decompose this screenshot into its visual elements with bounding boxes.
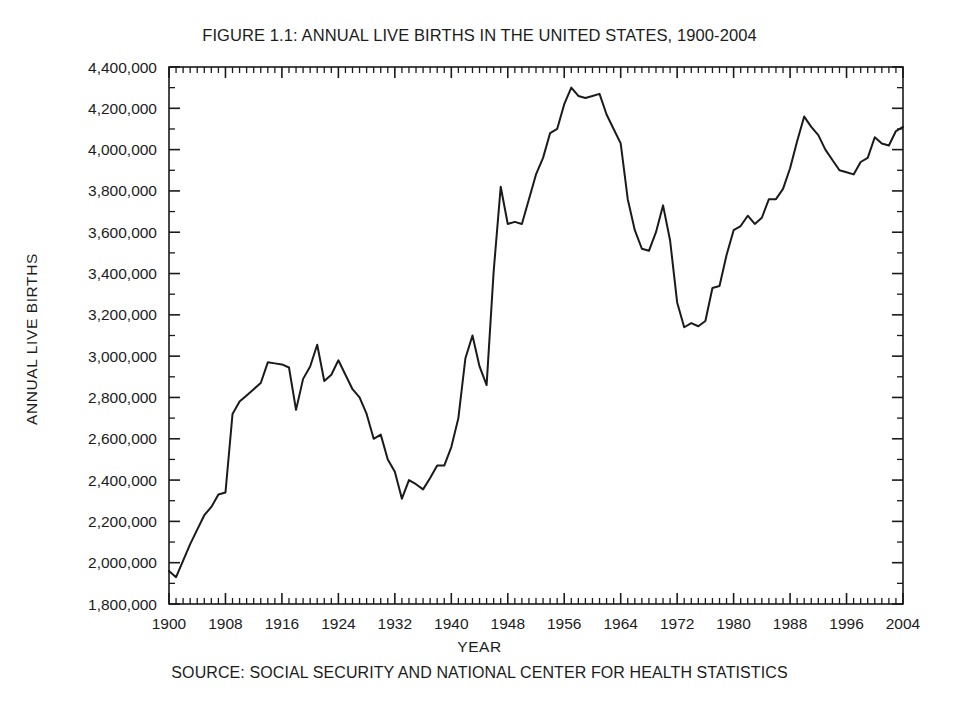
svg-text:3,200,000: 3,200,000 (88, 306, 157, 323)
svg-text:4,200,000: 4,200,000 (88, 100, 157, 117)
svg-text:2,400,000: 2,400,000 (88, 472, 157, 489)
svg-text:1900: 1900 (152, 615, 187, 632)
axes-frame (169, 67, 903, 604)
source-note: SOURCE: SOCIAL SECURITY AND NATIONAL CEN… (0, 664, 959, 682)
svg-text:2004: 2004 (886, 615, 921, 632)
svg-text:1964: 1964 (603, 615, 638, 632)
births-line-series (169, 88, 903, 578)
svg-text:1908: 1908 (208, 615, 242, 632)
svg-text:4,400,000: 4,400,000 (88, 59, 157, 76)
svg-text:1932: 1932 (378, 615, 412, 632)
figure-container: FIGURE 1.1: ANNUAL LIVE BIRTHS IN THE UN… (0, 0, 959, 705)
svg-text:1940: 1940 (434, 615, 469, 632)
line-chart-plot: 4,400,0004,200,0004,000,0003,800,0003,60… (0, 0, 959, 705)
svg-text:1924: 1924 (321, 615, 356, 632)
svg-text:1,800,000: 1,800,000 (88, 596, 157, 613)
x-axis-title: YEAR (0, 638, 959, 656)
svg-text:1996: 1996 (829, 615, 863, 632)
svg-text:1948: 1948 (491, 615, 525, 632)
x-axis-tick-labels: 1900190819161924193219401948195619641972… (152, 615, 921, 632)
svg-text:1988: 1988 (773, 615, 807, 632)
svg-text:1972: 1972 (660, 615, 694, 632)
svg-text:2,200,000: 2,200,000 (88, 513, 157, 530)
svg-text:2,000,000: 2,000,000 (88, 554, 157, 571)
svg-text:2,600,000: 2,600,000 (88, 430, 157, 447)
svg-text:1916: 1916 (265, 615, 299, 632)
svg-text:3,400,000: 3,400,000 (88, 265, 157, 282)
axis-ticks (169, 67, 903, 604)
svg-text:2,800,000: 2,800,000 (88, 389, 157, 406)
svg-text:3,800,000: 3,800,000 (88, 182, 157, 199)
svg-text:1980: 1980 (716, 615, 751, 632)
svg-text:1956: 1956 (547, 615, 581, 632)
svg-text:3,600,000: 3,600,000 (88, 224, 157, 241)
svg-text:3,000,000: 3,000,000 (88, 348, 157, 365)
y-axis-tick-labels: 4,400,0004,200,0004,000,0003,800,0003,60… (88, 59, 157, 613)
svg-text:4,000,000: 4,000,000 (88, 141, 157, 158)
